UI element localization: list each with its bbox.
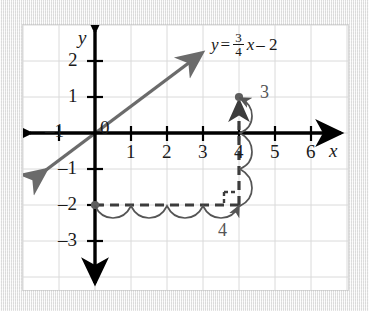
y-axis-label: y [78,28,86,47]
y-tick-label-1: 1 [68,86,78,105]
plot-area: –1 0 1 2 3 4 5 6 2 1 –1 –2 –3 y x 3 4 [23,25,348,290]
equation-equals: = [221,35,231,55]
x-tick-label-1: 1 [126,142,136,161]
equation-fraction: 3 4 [233,31,244,59]
x-tick-label-6: 6 [306,142,316,161]
y-tick-label--1: –1 [58,158,77,177]
equation-constant: – 2 [256,35,277,55]
x-tick-label-5: 5 [270,142,280,161]
x-tick-label-3: 3 [198,142,208,161]
x-tick-label--1: –1 [45,121,64,140]
equation-lhs: y [211,35,219,55]
y-tick-label-2: 2 [68,50,78,69]
right-angle-marker [224,192,237,205]
run-label: 4 [218,221,227,239]
x-tick-label-4: 4 [234,142,244,161]
fraction-numerator: 3 [233,31,244,44]
y-tick-label--2: –2 [58,194,77,213]
equation-label: y = 3 4 x – 2 [211,31,277,59]
graph-screenshot: –1 0 1 2 3 4 5 6 2 1 –1 –2 –3 y x 3 4 y … [0,0,369,311]
rise-label: 3 [260,83,269,101]
function-line [46,53,202,170]
point-y-intercept [91,201,99,209]
x-axis-label: x [329,141,337,160]
equation-variable: x [247,35,255,55]
origin-label: 0 [100,118,110,137]
fraction-denominator: 4 [233,44,244,58]
x-tick-label-2: 2 [162,142,172,161]
y-tick-label--3: –3 [58,230,77,249]
